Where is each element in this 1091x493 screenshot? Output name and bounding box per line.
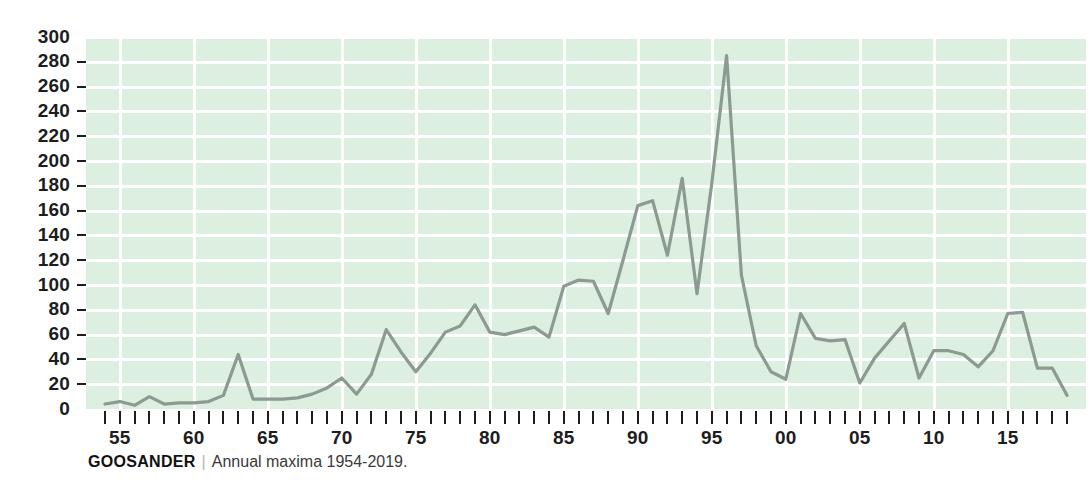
- y-tick-mark: [77, 383, 86, 385]
- x-tick-label: 95: [701, 427, 723, 449]
- x-tick: [1007, 411, 1009, 424]
- x-tick: [489, 411, 491, 424]
- plot-area: [86, 37, 1086, 409]
- x-tick: [400, 411, 402, 424]
- x-tick-label: 10: [923, 427, 945, 449]
- x-tick-label: 65: [257, 427, 279, 449]
- y-tick-mark: [77, 36, 86, 38]
- chart-figure: 0204060801001201401601802002202402602803…: [0, 0, 1091, 493]
- y-tick-mark: [77, 334, 86, 336]
- x-tick: [356, 411, 358, 424]
- x-tick: [696, 411, 698, 424]
- x-tick: [341, 411, 343, 424]
- x-tick: [563, 411, 565, 424]
- y-tick-label: 300: [38, 27, 70, 46]
- x-tick: [814, 411, 816, 424]
- y-tick-label: 100: [38, 275, 70, 294]
- x-tick: [681, 411, 683, 424]
- x-tick-label: 60: [183, 427, 205, 449]
- x-tick: [652, 411, 654, 424]
- y-tick-label: 120: [38, 250, 70, 269]
- x-tick: [548, 411, 550, 424]
- y-tick-mark: [77, 86, 86, 88]
- y-tick-mark: [77, 135, 86, 137]
- x-tick: [459, 411, 461, 424]
- x-tick: [104, 411, 106, 424]
- x-tick: [903, 411, 905, 424]
- x-tick: [163, 411, 165, 424]
- x-tick-label: 70: [331, 427, 353, 449]
- y-tick-label: 200: [38, 151, 70, 170]
- x-tick: [385, 411, 387, 424]
- x-tick: [1066, 411, 1068, 424]
- y-tick-mark: [77, 259, 86, 261]
- x-tick: [267, 411, 269, 424]
- x-tick: [844, 411, 846, 424]
- x-tick: [755, 411, 757, 424]
- x-tick-label: 15: [997, 427, 1019, 449]
- y-tick-mark: [77, 210, 86, 212]
- caption-subtitle: Annual maxima 1954-2019.: [212, 453, 408, 470]
- data-line: [105, 56, 1067, 406]
- y-tick-label: 260: [38, 76, 70, 95]
- y-tick-mark: [77, 358, 86, 360]
- x-tick: [918, 411, 920, 424]
- y-tick-label: 280: [38, 51, 70, 70]
- x-tick: [1022, 411, 1024, 424]
- x-tick: [504, 411, 506, 424]
- x-tick-label: 55: [109, 427, 131, 449]
- x-tick: [711, 411, 713, 424]
- x-tick: [533, 411, 535, 424]
- series-line-goosander: [86, 37, 1086, 409]
- x-tick: [948, 411, 950, 424]
- x-tick: [444, 411, 446, 424]
- x-tick: [1036, 411, 1038, 424]
- x-tick: [178, 411, 180, 424]
- x-tick: [770, 411, 772, 424]
- y-tick-mark: [77, 61, 86, 63]
- x-tick: [726, 411, 728, 424]
- x-tick: [148, 411, 150, 424]
- y-tick-label: 40: [48, 349, 70, 368]
- y-tick-mark: [77, 185, 86, 187]
- x-tick-label: 90: [627, 427, 649, 449]
- x-tick: [607, 411, 609, 424]
- x-tick: [829, 411, 831, 424]
- caption-divider: |: [202, 453, 206, 470]
- x-tick: [785, 411, 787, 424]
- x-tick: [222, 411, 224, 424]
- y-axis: 0204060801001201401601802002202402602803…: [0, 0, 92, 440]
- x-tick: [578, 411, 580, 424]
- x-tick: [740, 411, 742, 424]
- y-tick-mark: [77, 284, 86, 286]
- y-tick-label: 180: [38, 175, 70, 194]
- x-tick: [252, 411, 254, 424]
- x-tick: [518, 411, 520, 424]
- x-tick: [237, 411, 239, 424]
- x-tick: [933, 411, 935, 424]
- x-tick: [592, 411, 594, 424]
- x-tick: [415, 411, 417, 424]
- x-tick: [962, 411, 964, 424]
- x-tick: [622, 411, 624, 424]
- y-tick-label: 220: [38, 126, 70, 145]
- x-tick-label: 85: [553, 427, 575, 449]
- y-tick-label: 160: [38, 200, 70, 219]
- x-tick-label: 75: [405, 427, 427, 449]
- y-tick-label: 80: [48, 299, 70, 318]
- x-tick: [134, 411, 136, 424]
- x-tick: [430, 411, 432, 424]
- y-tick-label: 60: [48, 324, 70, 343]
- y-tick-mark: [77, 234, 86, 236]
- x-tick-label: 05: [849, 427, 871, 449]
- caption-species: GOOSANDER: [88, 453, 196, 470]
- x-tick: [282, 411, 284, 424]
- y-tick-mark: [77, 408, 86, 410]
- x-tick: [119, 411, 121, 424]
- y-tick-label: 0: [59, 399, 70, 418]
- x-tick: [992, 411, 994, 424]
- x-tick: [859, 411, 861, 424]
- x-tick: [888, 411, 890, 424]
- y-tick-mark: [77, 160, 86, 162]
- y-tick-mark: [77, 309, 86, 311]
